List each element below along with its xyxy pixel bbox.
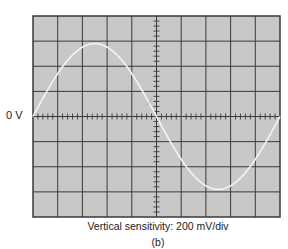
oscilloscope-screen xyxy=(0,0,288,249)
sensitivity-caption: Vertical sensitivity: 200 mV/div xyxy=(14,220,288,232)
figure-sublabel: (b) xyxy=(14,236,288,248)
zero-volt-label: 0 V xyxy=(6,109,23,121)
